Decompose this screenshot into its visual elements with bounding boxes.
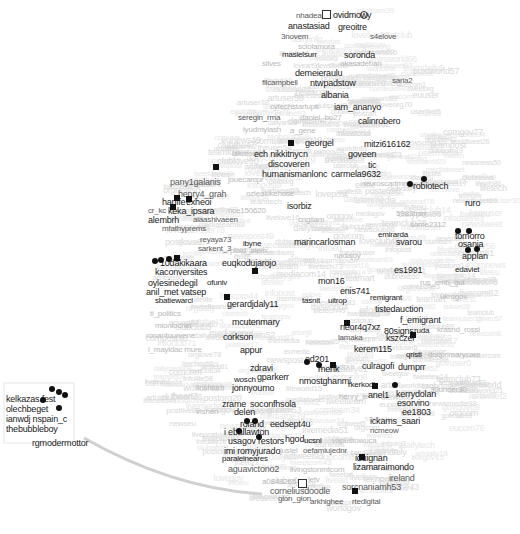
main-node-label[interactable]: reyaya73 bbox=[200, 236, 231, 244]
main-node-label[interactable]: iam_ananyo bbox=[334, 103, 381, 112]
node-dot-icon[interactable] bbox=[40, 397, 46, 403]
node-square-icon[interactable] bbox=[213, 164, 219, 170]
main-node-label[interactable]: enis741 bbox=[340, 287, 370, 296]
node-dot-icon[interactable] bbox=[465, 247, 471, 253]
main-node-label[interactable]: humanism bbox=[262, 170, 302, 179]
main-node-label[interactable]: sbatiewarcl bbox=[155, 297, 193, 305]
main-node-label[interactable]: discoveren bbox=[268, 160, 310, 169]
main-node-label[interactable]: pany1galanis bbox=[170, 178, 221, 187]
node-square-icon[interactable] bbox=[252, 268, 258, 274]
main-node-label[interactable]: aiaashivaeen bbox=[193, 216, 238, 224]
main-node-label[interactable]: ucsnl bbox=[304, 437, 322, 445]
main-node-label[interactable]: ozleakikehose bbox=[246, 190, 294, 198]
main-node-label[interactable]: silves bbox=[262, 60, 281, 68]
main-node-label[interactable]: greoitre bbox=[338, 23, 367, 32]
main-node-label[interactable]: aguavictono2 bbox=[228, 465, 279, 474]
main-node-label[interactable]: rtedigital bbox=[352, 498, 380, 506]
node-ring-icon[interactable] bbox=[360, 11, 368, 19]
main-node-label[interactable]: tasnit bbox=[302, 297, 320, 305]
main-node-label[interactable]: neuroscadmny bbox=[361, 180, 411, 188]
main-node-label[interactable]: edaviet bbox=[455, 266, 479, 274]
node-dot-icon[interactable] bbox=[455, 228, 461, 234]
main-node-label[interactable]: some2312 bbox=[410, 221, 446, 229]
main-node-label[interactable]: delen bbox=[234, 408, 255, 417]
main-node-label[interactable]: cr_kc bbox=[148, 207, 166, 215]
main-node-label[interactable]: svarou bbox=[396, 238, 422, 247]
main-node-label[interactable]: tistedauction bbox=[375, 305, 423, 314]
main-node-label[interactable]: corkson bbox=[223, 333, 253, 342]
main-node-label[interactable]: euqkodujarojo bbox=[222, 259, 276, 268]
node-square-icon[interactable] bbox=[330, 362, 336, 368]
side-node-label[interactable]: ianwdj nspain_c bbox=[6, 415, 67, 424]
main-node-label[interactable]: lyudmylash bbox=[243, 126, 281, 134]
main-node-label[interactable]: livingstonmtcom bbox=[290, 466, 344, 474]
node-dot-icon[interactable] bbox=[316, 362, 322, 368]
main-node-label[interactable]: ncmeow bbox=[370, 427, 399, 435]
main-node-label[interactable]: ntwpadstow bbox=[310, 79, 356, 88]
main-node-label[interactable]: mfathyprems bbox=[162, 225, 206, 233]
main-node-label[interactable]: ech nikkitnycn bbox=[254, 150, 308, 159]
node-square-icon[interactable] bbox=[352, 488, 358, 494]
main-node-label[interactable]: ickams_saari bbox=[370, 417, 420, 426]
main-node-label[interactable]: daniel_bo27 bbox=[300, 114, 341, 122]
main-node-label[interactable]: demeieraulu bbox=[295, 69, 342, 78]
main-node-label[interactable]: georgel bbox=[305, 139, 334, 148]
main-node-label[interactable]: hgod bbox=[285, 435, 304, 444]
main-node-label[interactable]: kaconversites bbox=[155, 268, 207, 277]
main-node-label[interactable]: henry_le bbox=[339, 393, 368, 401]
main-node-label[interactable]: nce150620 bbox=[228, 207, 266, 215]
main-node-label[interactable]: remigrant bbox=[370, 294, 402, 302]
node-square-icon[interactable] bbox=[174, 255, 180, 261]
main-node-label[interactable]: jonnyoumo bbox=[232, 384, 274, 393]
main-node-label[interactable]: es1991 bbox=[394, 266, 422, 275]
side-node-label[interactable]: thebubbleboy bbox=[6, 425, 58, 434]
main-node-label[interactable]: justel bbox=[280, 447, 297, 455]
node-dot-icon[interactable] bbox=[236, 428, 242, 434]
main-node-label[interactable]: eedsept4u bbox=[270, 420, 310, 429]
main-node-label[interactable]: 5983barr bbox=[396, 210, 426, 218]
main-node-label[interactable]: nadajoy bbox=[334, 252, 361, 260]
node-square-icon[interactable] bbox=[186, 196, 192, 202]
main-node-label[interactable]: robiotech bbox=[413, 182, 448, 191]
main-node-label[interactable]: gion_gion bbox=[278, 495, 311, 503]
main-node-label[interactable]: applan bbox=[462, 252, 488, 261]
main-node-label[interactable]: nmostghanmi bbox=[299, 377, 351, 386]
main-node-label[interactable]: f_emigrant bbox=[400, 316, 441, 325]
side-node-label[interactable]: kelkazas.fest bbox=[6, 395, 55, 404]
main-node-label[interactable]: albania bbox=[321, 91, 349, 100]
main-node-label[interactable]: a_gene bbox=[290, 127, 316, 135]
main-node-label[interactable]: lizamaraimondo bbox=[353, 463, 414, 472]
main-node-label[interactable]: a0848265 bbox=[262, 478, 296, 486]
main-node-label[interactable]: s4elove bbox=[370, 33, 396, 41]
main-node-label[interactable]: ti_politics bbox=[150, 310, 181, 318]
node-dot-icon[interactable] bbox=[62, 392, 68, 398]
main-node-label[interactable]: sarkent_3 bbox=[198, 245, 231, 253]
main-node-label[interactable]: ruda bbox=[414, 327, 429, 335]
node-dot-icon[interactable] bbox=[252, 418, 258, 424]
main-node-label[interactable]: gerardjdaly11 bbox=[227, 300, 278, 309]
node-square-icon[interactable] bbox=[372, 383, 378, 389]
main-node-label[interactable]: letv bbox=[308, 476, 320, 484]
main-node-label[interactable]: i_mayldac mure bbox=[148, 346, 202, 354]
main-node-label[interactable]: okasadeban bbox=[340, 60, 382, 68]
main-node-label[interactable]: docprimarycare bbox=[428, 351, 480, 359]
node-dot-icon[interactable] bbox=[158, 257, 164, 263]
main-node-label[interactable]: vapustowuca bbox=[332, 437, 377, 445]
node-dot-icon[interactable] bbox=[256, 434, 262, 440]
main-node-label[interactable]: kerem115 bbox=[354, 345, 392, 354]
node-dot-icon[interactable] bbox=[304, 359, 310, 365]
main-node-label[interactable]: ronantourvene bbox=[146, 332, 195, 340]
main-node-label[interactable]: arkhighee bbox=[310, 498, 343, 506]
main-node-label[interactable]: seregin_rma bbox=[238, 114, 280, 122]
node-dot-icon[interactable] bbox=[466, 228, 472, 234]
main-node-label[interactable]: calinrobero bbox=[358, 117, 400, 126]
main-node-label[interactable]: sorcnaniamh53 bbox=[342, 483, 401, 492]
node-square-icon[interactable] bbox=[224, 294, 230, 300]
node-square-outline-icon[interactable] bbox=[298, 479, 307, 488]
node-square-icon[interactable] bbox=[344, 320, 350, 326]
main-node-label[interactable]: restors bbox=[258, 437, 284, 446]
node-square-outline-icon[interactable] bbox=[322, 10, 331, 19]
node-dot-icon[interactable] bbox=[56, 405, 62, 411]
node-dot-icon[interactable] bbox=[244, 418, 250, 424]
main-node-label[interactable]: anel1 bbox=[368, 391, 389, 400]
